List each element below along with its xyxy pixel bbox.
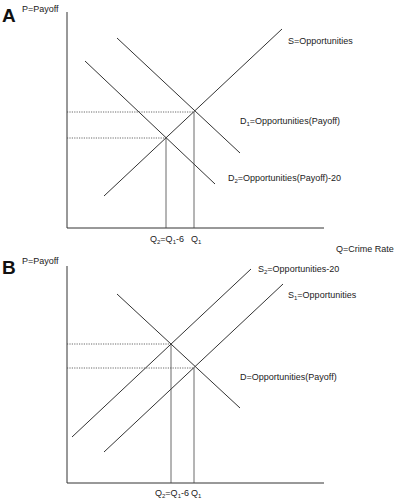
panel-a-x-axis-label: Q=Crime Rate — [336, 244, 394, 254]
panel-a-tick-q2: Q2=Q1-6 — [150, 234, 184, 245]
panel-b-label-s1: S1=Opportunities — [288, 290, 357, 301]
panel-b: B P=Payoff S2=Opportunities-20 S1=Opport… — [2, 256, 357, 499]
supply-demand-diagram: A P=Payoff Q=Crime Rate S=Opportunities … — [0, 0, 396, 499]
panel-a-demand-curve-d1 — [117, 38, 240, 153]
panel-a-label-d1: D1=Opportunities(Payoff) — [240, 116, 340, 127]
panel-b-label-s2: S2=Opportunities-20 — [258, 264, 339, 275]
panel-b-letter: B — [2, 257, 16, 278]
panel-b-tick-q1: Q1 — [191, 488, 202, 499]
panel-b-demand-curve — [117, 294, 240, 408]
panel-a-label-s: S=Opportunities — [288, 36, 353, 46]
panel-a: A P=Payoff Q=Crime Rate S=Opportunities … — [2, 4, 394, 254]
panel-b-supply-curve-s1 — [104, 284, 283, 452]
panel-a-letter: A — [2, 5, 16, 26]
panel-a-y-axis-label: P=Payoff — [22, 4, 59, 14]
panel-a-tick-q1: Q1 — [191, 234, 202, 245]
panel-a-demand-curve-d2 — [85, 61, 215, 184]
panel-a-label-d2: D2=Opportunities(Payoff)-20 — [228, 173, 341, 184]
panel-b-y-axis-label: P=Payoff — [22, 256, 59, 266]
panel-b-label-d: D=Opportunities(Payoff) — [240, 372, 337, 382]
panel-a-supply-curve — [104, 29, 282, 196]
panel-b-tick-q2: Q2=Q1-6 — [155, 488, 189, 499]
panel-b-supply-curve-s2 — [72, 269, 251, 437]
